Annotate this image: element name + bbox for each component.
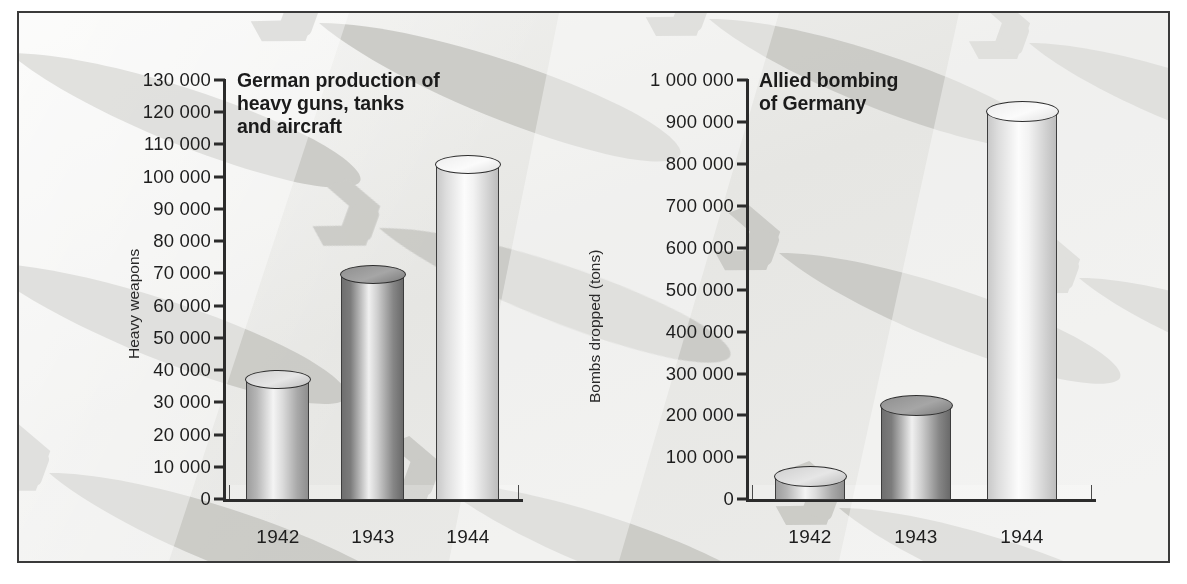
y-tick-label: 70 000	[79, 262, 211, 284]
bar-1943[interactable]	[881, 395, 951, 500]
y-tick-label: 30 000	[79, 391, 211, 413]
y-tick-label: 200 000	[564, 404, 734, 426]
bar-1943-top-ellipse	[340, 265, 406, 284]
y-tick-label: 120 000	[79, 101, 211, 123]
bar-1942-body	[246, 379, 309, 500]
bar-1942[interactable]	[246, 370, 309, 500]
y-tick-label: 90 000	[79, 198, 211, 220]
figure-root: German production of heavy guns, tanks a…	[0, 0, 1187, 584]
y-tick-label: 0	[564, 488, 734, 510]
bar-1944-body	[436, 164, 499, 500]
y-tick-label: 20 000	[79, 424, 211, 446]
chart-right-y-axis-line	[746, 79, 749, 501]
chart-left-y-axis-line	[223, 79, 226, 501]
y-tick-label: 400 000	[564, 321, 734, 343]
x-category-label: 1943	[351, 526, 394, 548]
y-tick-label: 500 000	[564, 279, 734, 301]
bar-1943[interactable]	[341, 265, 404, 500]
y-tick-label: 80 000	[79, 230, 211, 252]
x-category-label: 1944	[1000, 526, 1043, 548]
chart-allied-bombing: Allied bombing of Germany Bombs dropped …	[564, 13, 1164, 561]
y-tick-label: 300 000	[564, 363, 734, 385]
y-tick-label: 100 000	[79, 166, 211, 188]
y-tick-label: 800 000	[564, 153, 734, 175]
bar-1944[interactable]	[436, 155, 499, 500]
bar-1942-top-ellipse	[774, 466, 847, 487]
bar-1944-top-ellipse	[986, 101, 1059, 122]
y-tick-label: 0	[79, 488, 211, 510]
bar-1942-top-ellipse	[245, 370, 311, 389]
y-tick-label: 1 000 000	[564, 69, 734, 91]
bar-1943-body	[341, 274, 404, 500]
y-tick-label: 900 000	[564, 111, 734, 133]
bar-1943-top-ellipse	[880, 395, 953, 416]
chart-german-production: German production of heavy guns, tanks a…	[79, 13, 579, 561]
figure-panel: German production of heavy guns, tanks a…	[17, 11, 1170, 563]
y-tick-label: 700 000	[564, 195, 734, 217]
y-tick-label: 130 000	[79, 69, 211, 91]
x-category-label: 1944	[446, 526, 489, 548]
bar-1944[interactable]	[987, 101, 1057, 500]
chart-right-title: Allied bombing of Germany	[759, 69, 898, 115]
y-tick-label: 100 000	[564, 446, 734, 468]
y-tick-label: 60 000	[79, 295, 211, 317]
x-category-label: 1942	[256, 526, 299, 548]
bar-1944-top-ellipse	[435, 155, 501, 174]
x-category-label: 1943	[894, 526, 937, 548]
bar-1943-body	[881, 405, 951, 500]
x-category-label: 1942	[788, 526, 831, 548]
y-tick-label: 110 000	[79, 133, 211, 155]
y-tick-label: 600 000	[564, 237, 734, 259]
bar-1944-body	[987, 111, 1057, 500]
y-tick-label: 40 000	[79, 359, 211, 381]
bar-1942[interactable]	[775, 466, 845, 500]
y-tick-label: 50 000	[79, 327, 211, 349]
chart-left-title: German production of heavy guns, tanks a…	[237, 69, 440, 138]
y-tick-label: 10 000	[79, 456, 211, 478]
